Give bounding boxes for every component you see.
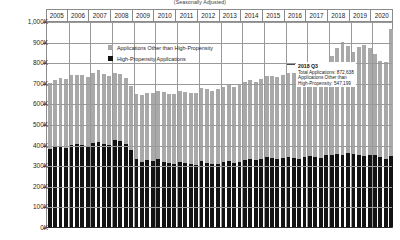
y-axis-tick <box>43 43 46 44</box>
year-label-2015: 2015 <box>263 10 285 21</box>
bar-quarter <box>303 71 307 227</box>
year-label-2005: 2005 <box>46 10 68 21</box>
bar-segment-other <box>389 29 393 156</box>
bar-segment-high-propensity <box>281 158 285 227</box>
y-axis-tick <box>43 104 46 105</box>
legend-swatch-high <box>108 56 113 61</box>
bar-segment-high-propensity <box>265 157 269 227</box>
bar-segment-high-propensity <box>232 163 236 227</box>
bar-segment-high-propensity <box>118 141 122 227</box>
bar-segment-high-propensity <box>270 158 274 227</box>
bar-segment-other <box>254 82 258 161</box>
year-divider-2017 <box>307 22 308 227</box>
plot-area <box>46 22 393 228</box>
bar-segment-other <box>86 77 90 147</box>
bar-segment-high-propensity <box>189 164 193 227</box>
bar-segment-high-propensity <box>178 162 182 228</box>
annotation-leader-line <box>287 64 295 65</box>
bar-segment-high-propensity <box>200 161 204 227</box>
bar-segment-other <box>107 76 111 145</box>
year-label-2017: 2017 <box>306 10 328 21</box>
bar-segment-high-propensity <box>259 159 263 227</box>
year-axis-header: 2005200620072008200920102011201220132014… <box>46 9 393 22</box>
year-label-2007: 2007 <box>89 10 111 21</box>
bar-segment-other <box>216 89 220 163</box>
bar-segment-high-propensity <box>221 162 225 227</box>
bar-quarter <box>129 86 133 227</box>
bar-segment-high-propensity <box>97 142 101 227</box>
bar-quarter <box>107 76 111 227</box>
bar-segment-other <box>384 62 388 159</box>
bar-segment-high-propensity <box>91 143 95 227</box>
bar-segment-other <box>275 77 279 159</box>
bar-quarter <box>378 61 382 227</box>
bar-segment-other <box>97 70 101 141</box>
y-axis-tick <box>43 187 46 188</box>
bar-segment-high-propensity <box>113 140 117 227</box>
bar-quarter <box>357 47 361 227</box>
bar-quarter <box>254 82 258 227</box>
annotation-2018q3: 2018 Q3 Total Applications: 872,638 Appl… <box>296 62 356 87</box>
year-label-2006: 2006 <box>68 10 90 21</box>
bar-quarter <box>248 80 252 227</box>
y-axis-tick <box>43 146 46 147</box>
year-label-2018: 2018 <box>328 10 350 21</box>
bar-segment-high-propensity <box>227 161 231 227</box>
bar-quarter <box>238 84 242 227</box>
year-divider-2007 <box>90 22 91 227</box>
year-label-2019: 2019 <box>350 10 372 21</box>
annotation-header: 2018 Q3 <box>298 63 354 69</box>
chart-root: (Seasonally Adjusted) 200520062007200820… <box>0 0 400 240</box>
bar-segment-high-propensity <box>205 163 209 227</box>
bar-quarter <box>243 82 247 227</box>
bar-segment-high-propensity <box>135 159 139 227</box>
year-divider-2006 <box>69 22 70 227</box>
bar-quarter <box>64 79 68 227</box>
bar-segment-other <box>189 93 193 164</box>
chart-legend: Applications Other than High-Propensity … <box>108 43 213 65</box>
bar-quarter <box>102 74 106 227</box>
bar-quarter <box>80 75 84 227</box>
bar-segment-high-propensity <box>243 160 247 227</box>
bar-segment-high-propensity <box>292 158 296 227</box>
bar-segment-other <box>341 42 345 155</box>
bar-quarter <box>362 45 366 227</box>
bar-segment-high-propensity <box>297 159 301 227</box>
year-divider-2018 <box>329 22 330 227</box>
bar-segment-high-propensity <box>378 157 382 227</box>
bar-segment-high-propensity <box>254 160 258 227</box>
gridline-200K <box>47 187 392 188</box>
gridline-600K <box>47 104 392 105</box>
bar-segment-other <box>238 84 242 161</box>
gridline-500K <box>47 125 392 126</box>
bar-segment-high-propensity <box>303 157 307 227</box>
bar-segment-high-propensity <box>286 157 290 227</box>
year-label-2008: 2008 <box>111 10 133 21</box>
bar-segment-high-propensity <box>238 162 242 228</box>
bar-quarter <box>281 75 285 227</box>
bar-segment-high-propensity <box>319 158 323 227</box>
bar-quarter <box>216 89 220 227</box>
bar-quarter <box>221 87 225 227</box>
bar-quarter <box>319 68 323 227</box>
year-label-2011: 2011 <box>176 10 198 21</box>
year-label-2010: 2010 <box>154 10 176 21</box>
gridline-400K <box>47 146 392 147</box>
bar-quarter <box>373 54 377 227</box>
year-label-2009: 2009 <box>133 10 155 21</box>
bar-segment-other <box>69 75 73 145</box>
bar-quarter <box>368 48 372 227</box>
gridline-900K <box>47 43 392 44</box>
bar-segment-other <box>64 79 68 148</box>
year-divider-2014 <box>242 22 243 227</box>
y-axis-tick <box>43 166 46 167</box>
bar-quarter <box>297 75 301 227</box>
year-divider-2016 <box>286 22 287 227</box>
bar-segment-high-propensity <box>351 154 355 227</box>
year-label-2012: 2012 <box>198 10 220 21</box>
bar-quarter <box>86 77 90 227</box>
bar-quarter <box>118 74 122 227</box>
bar-segment-other <box>259 79 263 159</box>
bar-segment-other <box>53 80 57 148</box>
legend-swatch-other <box>108 45 113 50</box>
